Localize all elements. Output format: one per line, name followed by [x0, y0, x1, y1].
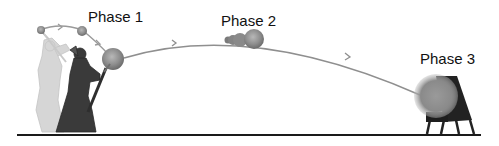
ball-release	[102, 48, 124, 70]
arrow-chevron-icon	[345, 53, 350, 60]
trajectory-path	[124, 45, 420, 95]
phase-3-label: Phase 3	[420, 51, 475, 66]
phase-2-label: Phase 2	[221, 13, 276, 28]
arrow-chevron-icon	[172, 40, 176, 46]
ball-windup-medium	[77, 26, 87, 36]
phase-1-label: Phase 1	[88, 9, 143, 24]
ball-windup-small	[37, 26, 45, 34]
trajectory-diagram: Phase 1 Phase 2 Phase 3	[0, 0, 499, 146]
arrow-chevron-icon	[58, 24, 62, 30]
ball-impact	[414, 74, 458, 118]
